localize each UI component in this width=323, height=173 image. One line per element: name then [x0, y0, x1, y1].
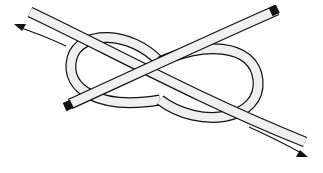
knot-diagram — [0, 0, 323, 173]
